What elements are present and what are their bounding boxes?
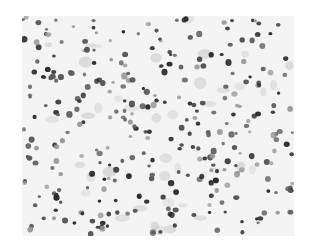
cell-nuclei xyxy=(22,16,294,236)
micrograph-image xyxy=(22,16,294,236)
